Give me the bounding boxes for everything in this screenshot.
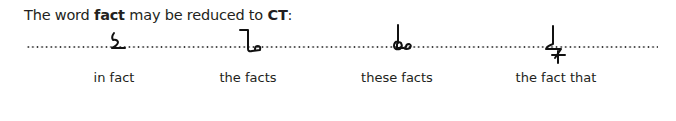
heading-middle: may be reduced to [125, 7, 268, 23]
example-label-these-facts: these facts [361, 70, 433, 86]
heading-abbrev: CT [267, 7, 287, 23]
heading: The word fact may be reduced to CT: [24, 6, 292, 24]
shorthand-in-fact-outline-icon [108, 31, 130, 53]
heading-suffix: : [288, 7, 293, 23]
example-label-in-fact: in fact [94, 70, 135, 86]
shorthand-the-fact-that-outline-icon [543, 25, 569, 65]
example-label-the-fact-that: the fact that [516, 70, 597, 86]
heading-keyword: fact [94, 7, 125, 23]
heading-prefix: The word [24, 7, 94, 23]
example-label-the-facts: the facts [219, 70, 276, 86]
shorthand-the-facts-outline-icon [238, 28, 266, 54]
shorthand-these-facts-outline-icon [392, 24, 420, 54]
